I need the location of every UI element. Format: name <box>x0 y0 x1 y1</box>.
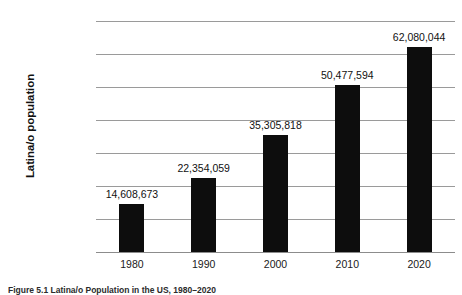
caption-text: Latina/o Population in the US, 1980–2020 <box>51 285 216 295</box>
bar[interactable] <box>335 85 360 252</box>
gridline <box>96 54 455 55</box>
gridline <box>96 87 455 88</box>
bar-value-label: 14,608,673 <box>77 188 187 200</box>
plot-area: 010,000,00020,000,00030,000,00040,000,00… <box>96 21 455 252</box>
bar[interactable] <box>191 178 216 252</box>
bar-value-label: 50,477,594 <box>292 69 402 81</box>
bar[interactable] <box>407 47 432 252</box>
gridline <box>96 21 455 22</box>
x-axis-line <box>96 252 455 253</box>
figure-caption: Figure 5.1 Latina/o Population in the US… <box>8 285 458 295</box>
x-tick-label: 2020 <box>374 258 462 270</box>
bar[interactable] <box>119 204 144 252</box>
bar-value-label: 62,080,044 <box>364 31 462 43</box>
bar-value-label: 35,305,818 <box>221 119 331 131</box>
bar-value-label: 22,354,059 <box>149 162 259 174</box>
caption-label: Figure 5.1 <box>8 285 48 295</box>
y-axis-title: Latina/o population <box>24 36 36 216</box>
bar[interactable] <box>263 135 288 252</box>
